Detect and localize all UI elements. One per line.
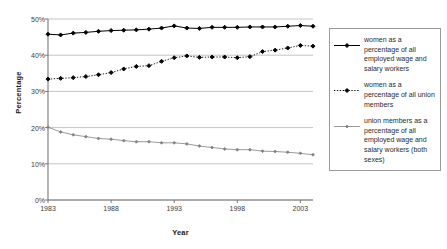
legend-marker-icon [333,36,361,45]
legend-label: union members as a percentage of all emp… [361,116,436,164]
data-point-marker [147,64,151,68]
data-point-marker [97,137,100,140]
data-point-marker [210,25,214,29]
data-point-marker [198,145,201,148]
data-point-marker [261,25,265,29]
data-point-marker [84,75,88,79]
data-point-marker [59,33,63,37]
data-point-marker [299,152,302,155]
data-point-marker [84,30,88,34]
data-point-marker [147,27,151,31]
data-point-marker [173,141,176,144]
data-point-marker [122,139,125,142]
legend-point-marker [345,44,349,48]
data-point-marker [273,48,277,52]
x-tick-label: 2003 [293,205,309,212]
data-point-marker [96,73,100,77]
y-tick-label: 10% [31,160,45,167]
data-point-marker [261,50,265,54]
data-point-marker [172,56,176,60]
data-point-marker [109,71,113,75]
data-point-marker [211,146,214,149]
plot-area: 0%10%20%30%40%50% 19831988199319982003 [48,19,313,200]
data-point-marker [235,25,239,29]
data-point-marker [235,56,239,60]
data-point-marker [286,46,290,50]
data-series-0 [46,24,315,37]
data-point-marker [84,135,87,138]
series-line [48,127,313,155]
x-axis-title: Year [48,228,313,237]
legend-item-0[interactable]: women as a percentage of all employed wa… [333,35,436,73]
data-point-marker [147,140,150,143]
legend-point-marker [345,89,349,93]
data-point-marker [46,32,50,36]
data-point-marker [261,150,264,153]
data-point-marker [223,25,227,29]
data-point-marker [210,55,214,59]
data-point-marker [72,133,75,136]
data-point-marker [273,25,277,29]
data-point-marker [46,77,50,81]
data-point-marker [122,28,126,32]
data-point-marker [59,76,63,80]
data-point-marker [160,59,164,63]
data-point-marker [135,140,138,143]
data-point-marker [71,76,75,80]
data-point-marker [248,25,252,29]
data-point-marker [236,148,239,151]
legend-marker-icon [333,117,361,126]
legend-point-marker [346,125,349,128]
legend-label: women as a percentage of all union membe… [361,80,436,109]
legend-label: women as a percentage of all employed wa… [361,35,436,73]
data-point-marker [71,31,75,35]
data-point-marker [110,138,113,141]
data-point-marker [298,24,302,28]
data-point-marker [185,142,188,145]
chart-figure: Percentage Year 0%10%20%30%40%50% 198319… [0,0,447,249]
data-series-2 [47,126,315,157]
data-point-marker [311,24,315,28]
data-series-1 [46,43,315,81]
data-point-marker [160,141,163,144]
data-point-marker [59,130,62,133]
data-point-marker [286,151,289,154]
data-point-marker [134,28,138,32]
x-tick-label: 1998 [229,205,245,212]
x-tick-label: 1983 [40,205,56,212]
data-point-marker [298,43,302,47]
data-point-marker [47,126,50,129]
data-point-marker [197,55,201,59]
y-tick-label: 0% [35,197,45,204]
data-point-marker [160,26,164,30]
data-point-marker [223,147,226,150]
x-tick-label: 1993 [166,205,182,212]
data-point-marker [185,26,189,30]
y-axis-title: Percentage [14,43,23,143]
data-point-marker [172,24,176,28]
data-point-marker [122,67,126,71]
legend-item-2[interactable]: union members as a percentage of all emp… [333,116,436,164]
chart-legend: women as a percentage of all employed wa… [329,28,441,171]
plot-svg [48,19,313,200]
data-point-marker [134,64,138,68]
y-tick-label: 20% [31,124,45,131]
y-tick-label: 40% [31,52,45,59]
y-tick-label: 50% [31,16,45,23]
data-point-marker [109,29,113,33]
x-tick-label: 1988 [103,205,119,212]
data-point-marker [223,55,227,59]
legend-item-1[interactable]: women as a percentage of all union membe… [333,80,436,109]
data-point-marker [274,150,277,153]
data-point-marker [96,29,100,33]
legend-marker-icon [333,81,361,90]
data-point-marker [312,153,315,156]
data-point-marker [248,148,251,151]
data-point-marker [197,26,201,30]
data-point-marker [286,24,290,28]
data-point-marker [185,54,189,58]
y-tick-label: 30% [31,88,45,95]
data-point-marker [311,44,315,48]
